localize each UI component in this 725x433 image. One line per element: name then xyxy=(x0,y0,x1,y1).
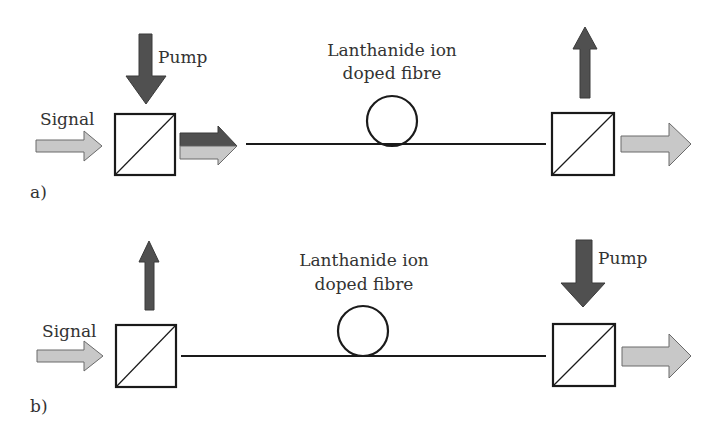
signal-output-arrow-a xyxy=(621,123,691,166)
fibre-label-line2-b: doped fibre xyxy=(315,274,414,294)
fibre-label-line1-b: Lanthanide ion xyxy=(299,250,429,270)
signal-input-arrow-a xyxy=(36,131,102,161)
signal-output-arrow-b xyxy=(622,334,691,378)
panel-label-a: a) xyxy=(30,182,47,202)
signal-label-b: Signal xyxy=(42,321,97,341)
panel-b: Signal Lanthanide ion doped fibre Pump b… xyxy=(30,240,691,416)
wdm-coupler-output-b xyxy=(553,324,615,386)
residual-pump-arrow-a xyxy=(573,27,597,98)
wdm-coupler-output-a xyxy=(552,113,614,175)
fibre-coil-b xyxy=(338,306,388,356)
pump-arrow-a xyxy=(126,34,166,104)
fibre-coil-a xyxy=(367,96,417,146)
signal-input-arrow-b xyxy=(37,341,103,371)
pump-label-a: Pump xyxy=(158,47,208,67)
residual-pump-arrow-b xyxy=(139,241,159,310)
panel-label-b: b) xyxy=(30,396,48,416)
fibre-label-line2-a: doped fibre xyxy=(343,63,442,83)
pump-label-b: Pump xyxy=(598,248,648,268)
wdm-coupler-input-b xyxy=(116,325,176,387)
signal-label-a: Signal xyxy=(40,109,95,129)
wdm-coupler-input-a xyxy=(115,114,175,175)
fibre-amplifier-diagram: Signal Pump Lanthanide ion doped fibre xyxy=(0,0,725,433)
panel-a: Signal Pump Lanthanide ion doped fibre xyxy=(30,27,691,202)
fibre-label-line1-a: Lanthanide ion xyxy=(327,40,457,60)
combined-signal-pump-arrow-a xyxy=(180,126,237,165)
